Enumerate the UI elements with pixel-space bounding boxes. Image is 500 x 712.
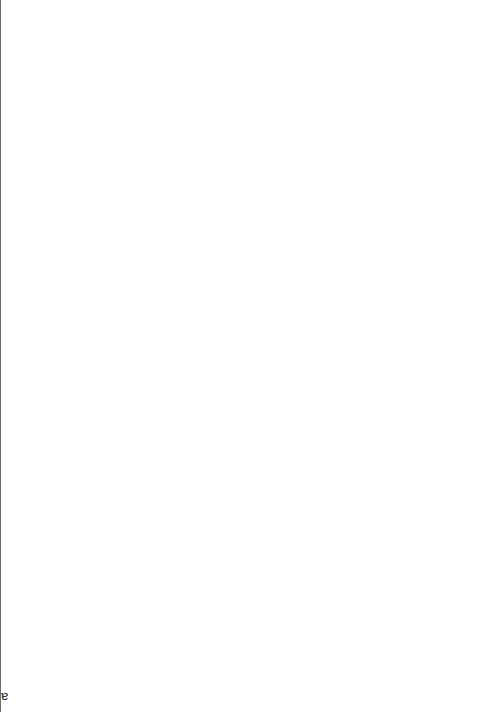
scanned-page: a 01020304050607080901000102030405060708… bbox=[0, 0, 500, 712]
page-edge-line bbox=[0, 0, 1, 712]
page-edge-glyph: a bbox=[1, 690, 8, 705]
